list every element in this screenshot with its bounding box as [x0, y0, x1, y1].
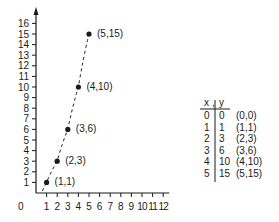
y-axis-arrow-icon [34, 7, 39, 15]
y-tick-label: 13 [18, 50, 30, 61]
x-tick-label: 8 [118, 201, 124, 212]
x-tick-label: 12 [158, 201, 169, 212]
x-tick-label: 7 [107, 201, 113, 212]
y-tick-label: 2 [23, 166, 29, 177]
table-row: 515(5,15) [204, 168, 262, 179]
x-tick-label: 1 [44, 201, 50, 212]
point-label: (3,6) [76, 123, 97, 134]
origin-label: 0 [18, 201, 24, 212]
y-axis-ticks: 12345678910111213141516 [18, 18, 36, 188]
y-tick-label: 7 [23, 113, 29, 124]
x-tick-label: 5 [86, 201, 92, 212]
y-tick-label: 14 [18, 39, 30, 50]
y-tick-label: 10 [18, 82, 30, 93]
table-cell-y: 6 [219, 145, 225, 156]
point-label: (2,3) [65, 155, 86, 166]
point-label: (1,1) [55, 176, 76, 187]
y-tick-label: 4 [23, 145, 29, 156]
table-cell-pair: (3,6) [236, 145, 257, 156]
table-header-y: y [219, 97, 224, 108]
table-row: 410(4,10) [204, 156, 262, 167]
x-axis-ticks: 123456789101112 [44, 193, 169, 212]
table-row: 11(1,1) [204, 122, 257, 133]
table-cell-x: 4 [204, 156, 210, 167]
y-tick-label: 9 [23, 92, 29, 103]
table-cell-pair: (1,1) [236, 122, 257, 133]
table-cell-pair: (0,0) [236, 110, 257, 121]
data-point [65, 127, 70, 132]
x-tick-label: 6 [97, 201, 103, 212]
table-cell-y: 3 [219, 133, 225, 144]
table-cell-y: 10 [219, 156, 231, 167]
table-cell-x: 2 [204, 133, 210, 144]
table-cell-pair: (2,3) [236, 133, 257, 144]
data-point [86, 31, 91, 36]
table-cell-x: 1 [204, 122, 210, 133]
table-row: 00(0,0) [204, 110, 257, 121]
y-tick-label: 5 [23, 135, 29, 146]
point-label: (5,15) [97, 28, 123, 39]
y-tick-label: 1 [23, 177, 29, 188]
point-label: (4,10) [86, 81, 112, 92]
y-tick-label: 8 [23, 103, 29, 114]
y-tick-label: 16 [18, 18, 30, 29]
dashed-curve [42, 34, 89, 191]
xy-table: x,y00(0,0)11(1,1)23(2,3)36(3,6)410(4,10)… [200, 97, 262, 182]
x-tick-label: 4 [76, 201, 82, 212]
table-cell-x: 3 [204, 145, 210, 156]
data-point [44, 180, 49, 185]
y-tick-label: 3 [23, 156, 29, 167]
x-tick-label: 11 [148, 201, 158, 212]
x-tick-label: 3 [65, 201, 71, 212]
table-cell-x: 0 [204, 110, 210, 121]
x-tick-label: 9 [129, 201, 135, 212]
table-cell-y: 1 [219, 122, 225, 133]
table-cell-pair: (4,10) [236, 156, 262, 167]
table-cell-y: 0 [219, 110, 225, 121]
table-row: 36(3,6) [204, 145, 257, 156]
y-tick-label: 6 [23, 124, 29, 135]
table-cell-x: 5 [204, 168, 210, 179]
x-tick-label: 10 [137, 201, 148, 212]
table-cell-pair: (5,15) [236, 168, 262, 179]
data-point [76, 84, 81, 89]
scatter-chart: 12345678910111213141516 123456789101112 … [0, 0, 279, 222]
data-point [55, 159, 60, 164]
x-tick-label: 2 [54, 201, 60, 212]
table-cell-y: 15 [219, 168, 231, 179]
y-tick-label: 11 [19, 71, 30, 82]
y-tick-label: 12 [18, 60, 30, 71]
y-tick-label: 15 [18, 29, 30, 40]
table-row: 23(2,3) [204, 133, 257, 144]
table-header-comma: , [212, 97, 215, 108]
table-header-x: x [204, 97, 209, 108]
